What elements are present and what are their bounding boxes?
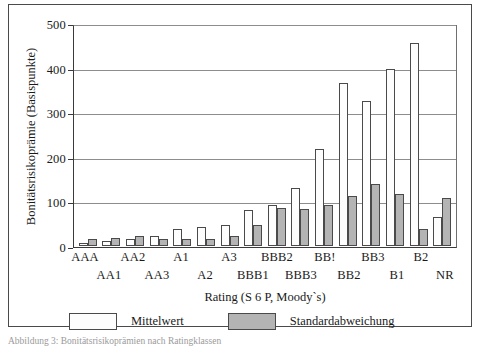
bar-group[interactable] xyxy=(407,27,431,246)
x-axis-tick-label-bbb2: BBB2 xyxy=(261,250,293,265)
bar-standardabweichung[interactable] xyxy=(182,239,191,246)
figure-caption: Abbildung 3: Bonitätsrisikoprämien nach … xyxy=(8,336,472,350)
bar-standardabweichung[interactable] xyxy=(159,239,168,246)
x-axis-tick-label-a3: A3 xyxy=(221,250,237,265)
x-axis-tick-label-bbb1: BBB1 xyxy=(237,268,269,283)
bar-standardabweichung[interactable] xyxy=(300,209,309,246)
bar-standardabweichung[interactable] xyxy=(277,208,286,246)
y-axis-tick-label: 300 xyxy=(47,107,66,122)
y-axis-tick-mark xyxy=(68,159,73,160)
bar-standardabweichung[interactable] xyxy=(253,225,262,246)
bar-group[interactable] xyxy=(289,27,313,246)
y-axis-title: Bonitätsrisikoprämie (Basispunkte) xyxy=(23,25,39,248)
plot-box xyxy=(73,25,457,248)
bar-group[interactable] xyxy=(360,27,384,246)
bar-standardabweichung[interactable] xyxy=(135,236,144,246)
bar-mittelwert[interactable] xyxy=(433,217,442,246)
x-axis-tick-label-a2: A2 xyxy=(197,268,213,283)
bar-group[interactable] xyxy=(265,27,289,246)
bar-mittelwert[interactable] xyxy=(386,69,395,246)
chart-legend: Mittelwert Standardabweichung xyxy=(69,310,459,332)
x-axis-tick-label-aa3: AA3 xyxy=(145,268,170,283)
y-axis-tick-label: 200 xyxy=(47,151,66,166)
y-axis-tick-label: 0 xyxy=(60,241,66,256)
y-axis-tick-mark xyxy=(68,114,73,115)
x-axis-tick-label-bb: BB! xyxy=(314,250,335,265)
bar-mittelwert[interactable] xyxy=(362,101,371,246)
legend-swatch-mittelwert xyxy=(69,313,117,330)
legend-item-standardabweichung: Standardabweichung xyxy=(228,313,395,330)
bar-standardabweichung[interactable] xyxy=(88,239,97,246)
bar-mittelwert[interactable] xyxy=(150,236,159,246)
bar-standardabweichung[interactable] xyxy=(442,198,451,246)
bar-mittelwert[interactable] xyxy=(197,227,206,246)
bar-mittelwert[interactable] xyxy=(291,188,300,246)
bar-mittelwert[interactable] xyxy=(173,229,182,246)
bar-group[interactable] xyxy=(147,27,171,246)
y-axis-tick-label: 500 xyxy=(47,18,66,33)
bar-mittelwert[interactable] xyxy=(244,210,253,246)
legend-label-standardabweichung: Standardabweichung xyxy=(290,314,395,329)
x-axis-tick-label-aa1: AA1 xyxy=(97,268,122,283)
y-axis-tick-label: 400 xyxy=(47,62,66,77)
bar-mittelwert[interactable] xyxy=(339,83,348,246)
x-axis-tick-label-bb3: BB3 xyxy=(361,250,385,265)
bar-mittelwert[interactable] xyxy=(79,243,88,246)
legend-swatch-standardabweichung xyxy=(228,313,276,330)
bar-group[interactable] xyxy=(218,27,242,246)
bar-group[interactable] xyxy=(76,27,100,246)
bar-standardabweichung[interactable] xyxy=(371,184,380,246)
bar-mittelwert[interactable] xyxy=(102,241,111,246)
bar-standardabweichung[interactable] xyxy=(111,238,120,246)
x-axis-tick-label-a1: A1 xyxy=(173,250,189,265)
x-axis-tick-label-aaa: AAA xyxy=(71,250,99,265)
bars-layer xyxy=(75,27,455,246)
bar-standardabweichung[interactable] xyxy=(348,196,357,246)
x-axis-tick-label-bb2: BB2 xyxy=(337,268,361,283)
bar-standardabweichung[interactable] xyxy=(324,205,333,246)
y-axis-tick-mark xyxy=(68,25,73,26)
x-axis-tick-label-aa2: AA2 xyxy=(121,250,146,265)
x-axis-tick-label-b2: B2 xyxy=(414,250,429,265)
x-axis-tick-label-b1: B1 xyxy=(390,268,405,283)
bar-standardabweichung[interactable] xyxy=(230,236,239,246)
bar-group[interactable] xyxy=(312,27,336,246)
y-axis-tick-mark xyxy=(68,70,73,71)
bar-group[interactable] xyxy=(171,27,195,246)
bar-mittelwert[interactable] xyxy=(126,239,135,246)
bar-mittelwert[interactable] xyxy=(410,43,419,246)
bar-mittelwert[interactable] xyxy=(268,205,277,246)
bar-group[interactable] xyxy=(430,27,454,246)
legend-item-mittelwert: Mittelwert xyxy=(69,313,184,330)
bar-standardabweichung[interactable] xyxy=(395,194,404,246)
y-axis-tick-mark xyxy=(68,203,73,204)
y-axis-tick-label: 100 xyxy=(47,196,66,211)
gridline xyxy=(74,25,456,26)
bar-group[interactable] xyxy=(383,27,407,246)
bar-group[interactable] xyxy=(336,27,360,246)
x-axis-tick-label-nr: NR xyxy=(436,268,454,283)
x-axis-tick-labels: AAAAA1AA2AA3A1A2A3BBB1BBB2BBB3BB!BB2BB3B… xyxy=(73,249,457,289)
figure-frame: Bonitätsrisikoprämie (Basispunkte) 01002… xyxy=(8,4,472,327)
x-axis-title: Rating (S 6 P, Moody`s) xyxy=(73,290,457,305)
bar-group[interactable] xyxy=(100,27,124,246)
bar-group[interactable] xyxy=(194,27,218,246)
bar-group[interactable] xyxy=(241,27,265,246)
bar-standardabweichung[interactable] xyxy=(206,239,215,246)
bar-mittelwert[interactable] xyxy=(221,225,230,246)
bar-group[interactable] xyxy=(123,27,147,246)
bar-standardabweichung[interactable] xyxy=(419,229,428,246)
legend-label-mittelwert: Mittelwert xyxy=(131,314,184,329)
x-axis-tick-label-bbb3: BBB3 xyxy=(285,268,317,283)
bar-mittelwert[interactable] xyxy=(315,149,324,246)
chart-plot-area: 0100200300400500 xyxy=(73,25,457,248)
